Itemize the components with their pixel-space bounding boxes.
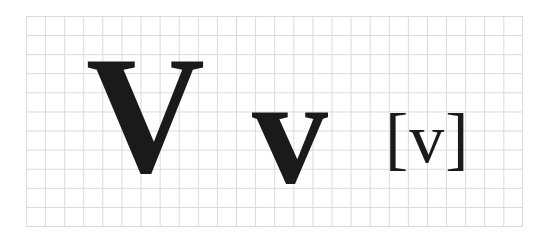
lowercase-letter: v xyxy=(252,56,328,208)
uppercase-letter: V xyxy=(86,30,205,198)
ipa-transcription: [v] xyxy=(385,104,470,174)
